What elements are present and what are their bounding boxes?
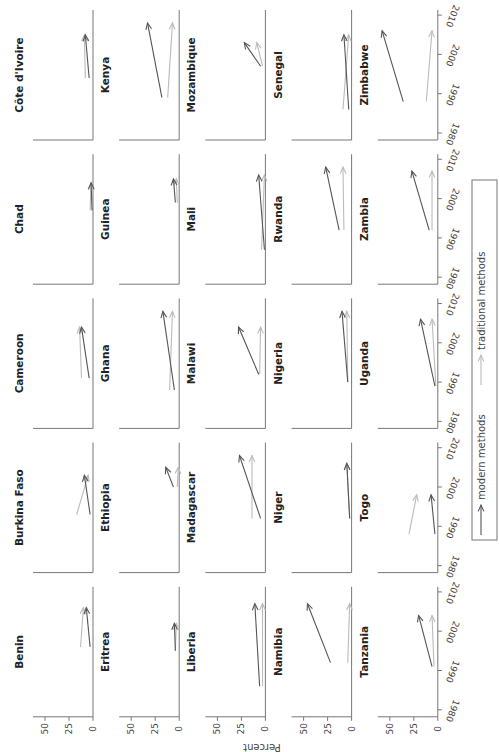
year-tick-label: 2010 <box>444 580 461 605</box>
year-tick-label: 1980 <box>444 122 461 147</box>
percent-tick-label: 0 <box>433 726 443 732</box>
traditional-arrow <box>409 495 418 534</box>
panel-title: Madagascar <box>185 471 197 543</box>
panel-ethiopia: Ethiopia <box>99 443 181 573</box>
traditional-arrow <box>175 467 181 487</box>
percent-tick-label: 50 <box>385 723 395 735</box>
panel-madagascar: Madagascar <box>185 443 265 573</box>
modern-arrow <box>429 495 435 534</box>
modern-arrow <box>239 456 261 519</box>
panel-chad: Chad <box>13 154 94 284</box>
panel-burkina-faso: Burkina Faso <box>13 443 93 573</box>
panel-guinea: Guinea <box>99 154 179 284</box>
panel-title: Liberia <box>185 631 197 672</box>
percent-tick-label: 50 <box>126 723 136 735</box>
traditional-arrow <box>340 167 346 230</box>
year-tick-label: 1990 <box>444 659 461 684</box>
modern-arrow <box>417 615 432 666</box>
panel-liberia: Liberia <box>185 587 265 717</box>
year-tick-label: 1980 <box>444 554 461 579</box>
modern-arrow <box>381 31 403 102</box>
contraceptive-trends-chart: Côte d'IvoireKenyaMozambiqueSenegalZimba… <box>0 0 499 752</box>
panel-title: Benin <box>13 635 25 669</box>
panel-uganda: Uganda <box>358 298 438 428</box>
panel-title: Ghana <box>99 345 111 383</box>
year-tick-label: 1990 <box>444 226 461 251</box>
panel-ghana: Ghana <box>99 298 179 428</box>
percent-tick-label: 25 <box>64 723 74 734</box>
year-tick-label: 1990 <box>444 515 461 540</box>
panel-title: Cameroon <box>13 333 25 393</box>
legend: modern methodstraditional methods <box>472 180 497 540</box>
percent-tick-label: 50 <box>212 723 222 735</box>
traditional-arrow <box>80 608 86 647</box>
traditional-arrow <box>429 171 435 230</box>
panel-namibia: Namibia <box>272 587 353 717</box>
modern-arrow <box>411 171 429 230</box>
panel-title: Zimbabwe <box>358 44 370 105</box>
year-tick-label: 1990 <box>444 371 461 396</box>
year-tick-label: 1980 <box>444 266 461 291</box>
year-tick-label: 2010 <box>444 292 461 317</box>
panel-mali: Mali <box>185 154 267 284</box>
panel-zambia: Zambia <box>358 154 438 284</box>
year-tick-label: 2010 <box>444 4 461 29</box>
panel-title: Eritrea <box>99 632 111 672</box>
year-tick-label: 2000 <box>444 43 461 68</box>
year-tick-label: 2000 <box>444 620 461 645</box>
legend-arrow-1 <box>478 355 484 385</box>
panel-mozambique: Mozambique <box>185 10 265 140</box>
panel-title: Senegal <box>272 51 284 98</box>
modern-arrow <box>165 467 173 487</box>
panel-title: Kenya <box>99 57 111 93</box>
panel-title: Mali <box>185 207 197 232</box>
panel-title: Burkina Faso <box>13 469 25 546</box>
modern-arrow <box>307 604 330 663</box>
panel-benin: Benin <box>13 587 93 717</box>
traditional-arrow <box>77 327 83 378</box>
year-tick-label: 2000 <box>444 187 461 212</box>
panel-c-te-d-ivoire: Côte d'Ivoire <box>13 10 93 140</box>
modern-arrow <box>344 463 350 518</box>
panel-cameroon: Cameroon <box>13 298 93 428</box>
modern-arrow <box>171 179 177 203</box>
year-tick-label: 1980 <box>444 698 461 723</box>
traditional-arrow <box>426 31 434 102</box>
percent-tick-label: 50 <box>40 723 50 735</box>
panel-title: Tanzania <box>358 626 370 678</box>
year-tick-label: 2010 <box>444 436 461 461</box>
legend-label: modern methods <box>476 414 487 500</box>
percent-tick-label: 0 <box>260 726 270 732</box>
panel-title: Côte d'Ivoire <box>13 37 25 112</box>
year-tick-label: 2000 <box>444 476 461 501</box>
modern-arrow <box>252 604 259 687</box>
panel-title: Niger <box>272 491 284 524</box>
panel-title: Zambia <box>358 197 370 241</box>
panel-title: Namibia <box>272 627 284 676</box>
modern-arrow <box>324 167 339 230</box>
traditional-arrow <box>82 35 88 78</box>
panel-zimbabwe: Zimbabwe <box>358 10 438 140</box>
panel-malawi: Malawi <box>185 298 265 428</box>
panel-eritrea: Eritrea <box>99 587 179 717</box>
percent-tick-label: 0 <box>347 726 357 732</box>
panel-title: Malawi <box>185 343 197 385</box>
panel-kenya: Kenya <box>99 10 179 140</box>
panel-title: Chad <box>13 204 25 234</box>
panel-rwanda: Rwanda <box>272 154 352 284</box>
traditional-arrow <box>261 175 267 250</box>
percent-tick-label: 50 <box>299 723 309 735</box>
y-axis-label: Percent <box>243 742 281 752</box>
legend-label: traditional methods <box>476 252 487 350</box>
modern-arrow <box>238 327 258 374</box>
panel-nigeria: Nigeria <box>272 298 352 428</box>
year-tick-label: 1980 <box>444 410 461 435</box>
panel-grid: Côte d'IvoireKenyaMozambiqueSenegalZimba… <box>13 10 438 717</box>
panel-title: Guinea <box>99 199 111 240</box>
percent-tick-label: 0 <box>174 726 184 732</box>
panel-title: Uganda <box>358 341 370 386</box>
percent-tick-label: 25 <box>150 723 160 734</box>
modern-arrow <box>172 623 178 651</box>
panel-title: Mozambique <box>185 37 197 112</box>
panel-togo: Togo <box>358 443 438 573</box>
